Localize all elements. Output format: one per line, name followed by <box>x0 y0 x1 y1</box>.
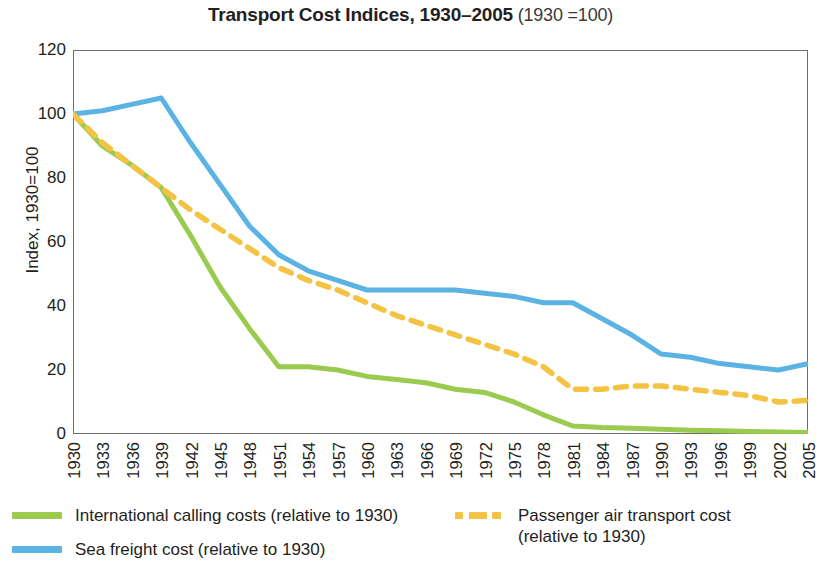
x-tick-label: 1933 <box>95 442 112 479</box>
legend-swatch-calling <box>12 512 62 519</box>
x-tick-label: 1972 <box>478 442 495 479</box>
y-axis-tick-labels: 020406080100120 <box>0 0 66 570</box>
y-tick-label: 60 <box>4 233 66 250</box>
x-tick-label: 1936 <box>125 442 142 479</box>
x-tick-label: 1942 <box>184 442 201 479</box>
x-tick-label: 2005 <box>801 442 818 479</box>
x-tick-label: 1978 <box>536 442 553 479</box>
legend-label-calling: International calling costs (relative to… <box>75 505 398 526</box>
x-tick-label: 1987 <box>625 442 642 479</box>
x-tick-label: 1999 <box>742 442 759 479</box>
x-tick-label: 1975 <box>507 442 524 479</box>
legend-label-air: Passenger air transport cost (relative t… <box>518 505 731 548</box>
legend-swatch-sea <box>12 546 62 553</box>
x-tick-label: 1960 <box>360 442 377 479</box>
x-tick-label: 1993 <box>683 442 700 479</box>
x-tick-label: 1990 <box>654 442 671 479</box>
x-tick-label: 1951 <box>272 442 289 479</box>
x-tick-label: 1957 <box>331 442 348 479</box>
chart-figure: Transport Cost Indices, 1930–2005 (1930 … <box>0 0 821 570</box>
chart-legend: International calling costs (relative to… <box>0 505 821 570</box>
legend-item-calling[interactable]: International calling costs (relative to… <box>12 505 398 526</box>
y-tick-label: 20 <box>4 361 66 378</box>
x-axis-tick-labels: 1930193319361939194219451948195119541957… <box>73 434 808 514</box>
x-tick-label: 1966 <box>419 442 436 479</box>
x-tick-label: 1963 <box>389 442 406 479</box>
chart-title-main: Transport Cost Indices, 1930–2005 <box>208 4 513 25</box>
x-tick-label: 1954 <box>301 442 318 479</box>
legend-item-sea[interactable]: Sea freight cost (relative to 1930) <box>12 539 325 560</box>
x-tick-label: 1945 <box>213 442 230 479</box>
x-tick-label: 1948 <box>242 442 259 479</box>
x-tick-label: 1939 <box>154 442 171 479</box>
y-tick-label: 0 <box>4 425 66 442</box>
x-tick-label: 1996 <box>713 442 730 479</box>
chart-series-canvas <box>73 50 808 434</box>
x-tick-label: 1981 <box>566 442 583 479</box>
x-tick-label: 1984 <box>595 442 612 479</box>
legend-item-air[interactable]: Passenger air transport cost (relative t… <box>455 505 731 548</box>
chart-title-subtitle: (1930 =100) <box>513 5 613 25</box>
y-tick-label: 120 <box>4 41 66 58</box>
x-tick-label: 1930 <box>66 442 83 479</box>
x-tick-label: 2002 <box>772 442 789 479</box>
y-tick-label: 40 <box>4 297 66 314</box>
x-tick-label: 1969 <box>448 442 465 479</box>
y-tick-label: 100 <box>4 105 66 122</box>
y-tick-label: 80 <box>4 169 66 186</box>
chart-title: Transport Cost Indices, 1930–2005 (1930 … <box>0 4 821 26</box>
legend-swatch-air <box>455 512 505 519</box>
legend-label-sea: Sea freight cost (relative to 1930) <box>75 539 325 560</box>
series-line-international <box>73 114 808 432</box>
